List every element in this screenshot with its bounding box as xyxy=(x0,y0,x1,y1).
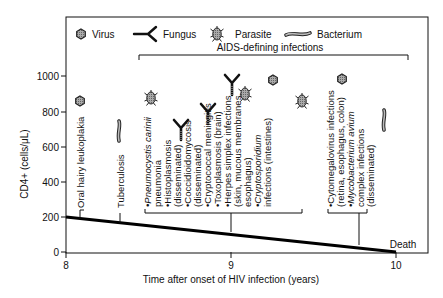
annotation-leaders xyxy=(80,209,367,245)
svg-text:200: 200 xyxy=(42,212,59,223)
svg-text:1000: 1000 xyxy=(37,71,60,82)
bacterium-icon xyxy=(118,121,119,141)
aids-bracket-label: AIDS-defining infections xyxy=(217,42,324,53)
legend: Virus Fungus Parasite Bacterium xyxy=(77,26,362,42)
legend-label-virus: Virus xyxy=(92,29,115,40)
x-axis: 8 9 10 Time after onset of HIV infection… xyxy=(63,252,402,285)
fungus-icon xyxy=(225,75,239,95)
y-axis-label: CD4+ (cells/μL) xyxy=(19,129,30,198)
svg-text:(disseminated): (disseminated) xyxy=(365,145,376,207)
legend-label-parasite: Parasite xyxy=(235,29,272,40)
cd4-timeline-chart: Virus Fungus Parasite Bacterium AIDS-def… xyxy=(0,0,443,298)
svg-text:10: 10 xyxy=(390,260,402,271)
bacterium-icon xyxy=(286,33,310,35)
y-axis: 1000 800 600 400 200 0 CD4+ (cells/μL) xyxy=(19,71,66,258)
parasite-icon xyxy=(296,93,309,109)
bacterium-icon xyxy=(383,110,384,130)
virus-icon xyxy=(338,74,347,84)
aids-bracket xyxy=(139,55,408,60)
fungus-icon xyxy=(134,27,156,41)
x-axis-label: Time after onset of HIV infection (years… xyxy=(143,274,319,285)
annotation-group-2: •Cytomegalovirus infections (retina, eso… xyxy=(325,90,376,207)
virus-icon xyxy=(76,96,85,106)
virus-icon xyxy=(77,29,86,39)
svg-text:400: 400 xyxy=(42,177,59,188)
legend-label-fungus: Fungus xyxy=(163,29,196,40)
svg-text:8: 8 xyxy=(63,260,69,271)
virus-icon xyxy=(269,75,278,85)
annotation-tuberculosis: Tuberculosis xyxy=(115,154,126,208)
death-label: Death xyxy=(390,239,417,250)
parasite-icon xyxy=(145,90,158,106)
svg-text:800: 800 xyxy=(42,107,59,118)
annotation-oral-hairy-leukoplakia: Oral hairy leukoplakia xyxy=(75,116,86,208)
svg-text:infections (intestines): infections (intestines) xyxy=(262,118,273,207)
svg-text:9: 9 xyxy=(228,260,234,271)
parasite-icon xyxy=(211,26,224,42)
legend-label-bacterium: Bacterium xyxy=(317,29,362,40)
svg-text:600: 600 xyxy=(42,142,59,153)
annotations: Oral hairy leukoplakia Tuberculosis •Pne… xyxy=(75,90,376,208)
svg-text:0: 0 xyxy=(53,247,59,258)
